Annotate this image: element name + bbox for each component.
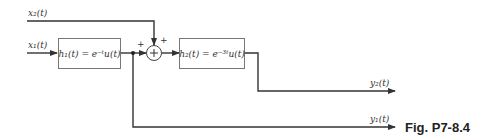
y1-label: y₁(t) [370, 115, 389, 124]
junction-dot [131, 51, 135, 55]
y2-label: y₂(t) [370, 79, 389, 88]
summer-sign-top: + [160, 36, 168, 45]
x1-label: x₁(t) [28, 41, 47, 50]
h2-block: h₂(t) = e⁻³ᵗu(t) [179, 38, 245, 69]
x2-label: x₂(t) [28, 9, 47, 18]
summer-sign-left: + [137, 40, 145, 49]
signal-wires [0, 0, 491, 140]
y1-wire [133, 53, 395, 127]
figure-caption: Fig. P7-8.4 [405, 121, 470, 134]
h1-block: h₁(t) = e⁻ᵗu(t) [58, 38, 121, 69]
